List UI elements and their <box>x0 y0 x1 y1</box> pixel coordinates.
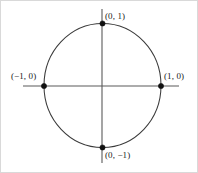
point-label-bottom: (0, −1) <box>105 150 130 160</box>
point-marker-right <box>158 83 163 88</box>
point-marker-left <box>41 83 46 88</box>
unit-circle-figure: (0, 1) (−1, 0) (1, 0) (0, −1) <box>0 0 198 173</box>
point-label-top: (0, 1) <box>105 11 125 21</box>
unit-circle-canvas <box>1 1 198 173</box>
point-marker-top <box>100 21 105 26</box>
point-label-left: (−1, 0) <box>11 71 36 81</box>
point-label-right: (1, 0) <box>164 71 184 81</box>
